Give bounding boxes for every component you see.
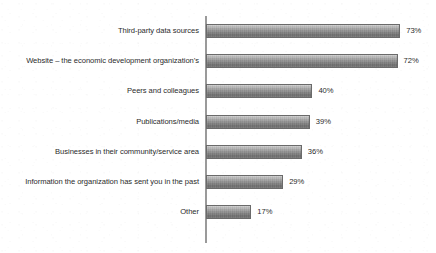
bar-row: Publications/media39% [0, 111, 436, 133]
bar-value-label: 73% [406, 26, 421, 36]
bar-container: 36% [206, 145, 323, 159]
bar-row: Information the organization has sent yo… [0, 171, 436, 193]
bar-value-label: 36% [308, 147, 323, 157]
bar-container: 39% [206, 115, 331, 129]
bar-category-label: Website – the economic development organ… [3, 56, 199, 66]
bar-value-label: 40% [318, 86, 333, 96]
bar-category-label: Other [3, 207, 199, 217]
bar-container: 72% [206, 54, 419, 68]
bar-category-label: Peers and colleagues [3, 86, 199, 96]
bar-container: 40% [206, 84, 334, 98]
bar-chart-plot-area: Third-party data sources73%Website – the… [0, 0, 436, 253]
bar-row: Other17% [0, 201, 436, 223]
bar-segment [206, 84, 312, 98]
bar-segment [206, 54, 398, 68]
bar-row: Third-party data sources73% [0, 20, 436, 42]
bar-category-label: Third-party data sources [3, 26, 199, 36]
bar-segment [206, 24, 400, 38]
bar-row: Businesses in their community/service ar… [0, 141, 436, 163]
bar-category-label: Information the organization has sent yo… [3, 177, 199, 187]
bar-segment [206, 175, 283, 189]
bar-container: 17% [206, 205, 272, 219]
bar-container: 73% [206, 24, 421, 38]
bar-container: 29% [206, 175, 304, 189]
bar-segment [206, 205, 251, 219]
bar-segment [206, 145, 302, 159]
bar-category-label: Businesses in their community/service ar… [3, 147, 199, 157]
bar-row: Website – the economic development organ… [0, 50, 436, 72]
bar-value-label: 72% [404, 56, 419, 66]
bar-value-label: 39% [316, 117, 331, 127]
bar-category-label: Publications/media [3, 117, 199, 127]
bar-row: Peers and colleagues40% [0, 80, 436, 102]
bar-segment [206, 115, 310, 129]
bar-value-label: 17% [257, 207, 272, 217]
bar-value-label: 29% [289, 177, 304, 187]
